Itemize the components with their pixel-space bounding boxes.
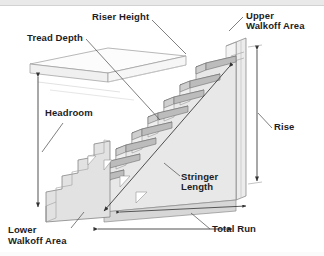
- label-rise: Rise: [274, 122, 294, 133]
- label-lower-walkoff-line1: Lower: [8, 225, 36, 236]
- label-tread-depth: Tread Depth: [27, 33, 83, 44]
- label-upper-walkoff-line2: Walkoff Area: [246, 21, 305, 32]
- label-headroom: Headroom: [45, 108, 93, 119]
- stair-side-panel: [104, 60, 236, 222]
- label-riser-height: Riser Height: [92, 12, 149, 23]
- bottom-edge-band: [0, 252, 324, 256]
- label-stringer-line2: Length: [181, 182, 213, 193]
- stair-diagram: Tread Depth Riser Height Upper Walkoff A…: [0, 0, 324, 256]
- ceiling-slab: [30, 48, 186, 100]
- label-lower-walkoff-line2: Walkoff Area: [8, 236, 67, 247]
- label-total-run: Total Run: [212, 224, 256, 235]
